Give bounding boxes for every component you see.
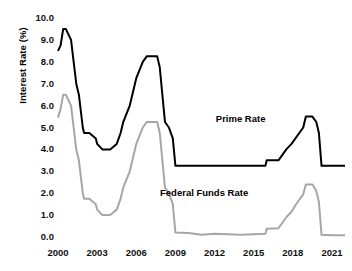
series-annotation-federal-funds-rate: Federal Funds Rate [160, 187, 248, 198]
series-line-prime-rate [58, 29, 345, 166]
series-annotation-prime-rate: Prime Rate [216, 113, 266, 124]
interest-rate-line-chart: Interest Rate (%) 10.09.08.07.06.05.04.0… [0, 0, 352, 271]
plot-area [0, 0, 352, 271]
series-paths [58, 29, 345, 235]
